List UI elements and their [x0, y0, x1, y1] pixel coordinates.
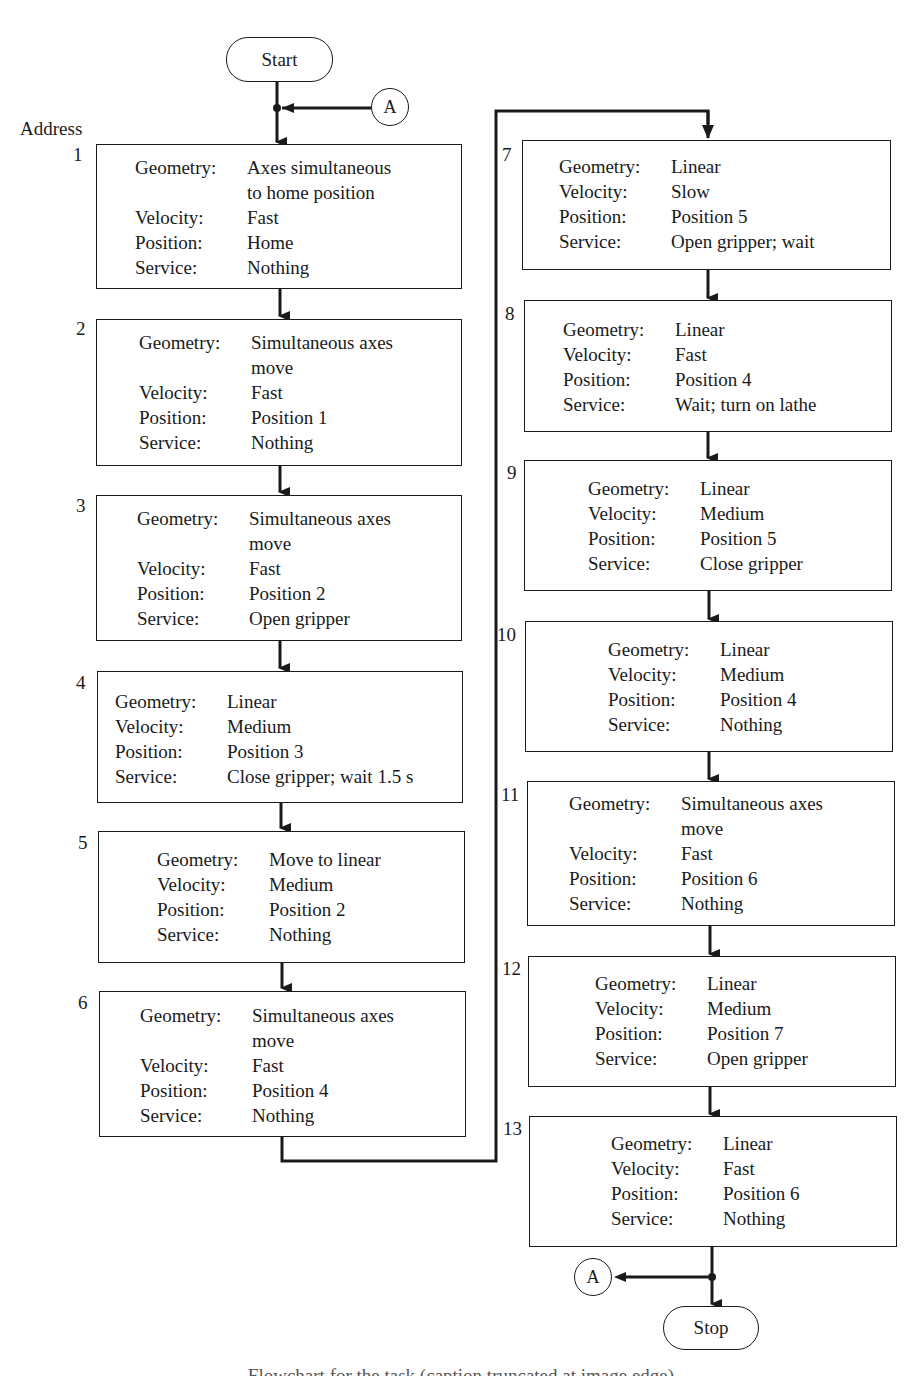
position-label: Position:: [137, 581, 249, 606]
position-value: Position 1: [251, 405, 328, 430]
velocity-label: Velocity:: [115, 714, 227, 739]
velocity-value: Fast: [251, 380, 283, 405]
service-label: Service:: [135, 255, 247, 280]
velocity-value: Fast: [681, 841, 713, 866]
figure-caption: Flowchart for the task (caption truncate…: [0, 1361, 922, 1376]
position-label: Position:: [157, 897, 269, 922]
geometry-value: Linear: [723, 1131, 773, 1156]
position-label: Position:: [563, 367, 675, 392]
service-value: Nothing: [681, 891, 743, 916]
service-label: Service:: [139, 430, 251, 455]
geometry-value: Linear: [707, 971, 757, 996]
step-box-2: Geometry:Simultaneous axes move Velocity…: [96, 319, 462, 466]
service-label: Service:: [595, 1046, 707, 1071]
velocity-label: Velocity:: [563, 342, 675, 367]
position-label: Position:: [569, 866, 681, 891]
step-box-11: Geometry:Simultaneous axes move Velocity…: [527, 781, 895, 926]
service-value: Nothing: [269, 922, 331, 947]
step-box-7: Geometry:Linear Velocity:Slow Position:P…: [522, 140, 891, 270]
position-value: Position 5: [700, 526, 777, 551]
address-heading: Address: [20, 118, 82, 140]
velocity-value: Slow: [671, 179, 710, 204]
geometry-value: Linear: [671, 154, 721, 179]
service-value: Open gripper: [707, 1046, 808, 1071]
step-address: 7: [502, 144, 512, 166]
velocity-label: Velocity:: [588, 501, 700, 526]
step-address: 3: [76, 495, 86, 517]
position-label: Position:: [139, 405, 251, 430]
position-value: Position 2: [249, 581, 326, 606]
velocity-label: Velocity:: [608, 662, 720, 687]
service-value: Nothing: [720, 712, 782, 737]
step-box-3: Geometry:Simultaneous axes move Velocity…: [96, 495, 462, 641]
geometry-value-cont: move: [249, 531, 291, 556]
step-address: 6: [78, 992, 88, 1014]
geometry-label: Geometry:: [559, 154, 671, 179]
service-value: Nothing: [251, 430, 313, 455]
step-address: 5: [78, 832, 88, 854]
connector-a-bottom: A: [574, 1258, 612, 1296]
geometry-value: Simultaneous axes: [249, 506, 391, 531]
service-value: Open gripper: [249, 606, 350, 631]
geometry-value: Axes simultaneous: [247, 155, 391, 180]
geometry-value-cont: to home position: [247, 180, 375, 205]
position-value: Home: [247, 230, 293, 255]
position-label: Position:: [140, 1078, 252, 1103]
velocity-label: Velocity:: [137, 556, 249, 581]
geometry-label: Geometry:: [137, 506, 249, 531]
step-address: 10: [497, 624, 516, 646]
velocity-label: Velocity:: [611, 1156, 723, 1181]
stop-label: Stop: [694, 1317, 729, 1339]
position-value: Position 4: [675, 367, 752, 392]
service-value: Nothing: [252, 1103, 314, 1128]
service-value: Close gripper; wait 1.5 s: [227, 764, 413, 789]
velocity-value: Medium: [700, 501, 764, 526]
position-label: Position:: [595, 1021, 707, 1046]
geometry-label: Geometry:: [157, 847, 269, 872]
service-value: Nothing: [247, 255, 309, 280]
geometry-value: Simultaneous axes: [252, 1003, 394, 1028]
geometry-value: Simultaneous axes: [681, 791, 823, 816]
step-box-13: Geometry:Linear Velocity:Fast Position:P…: [529, 1116, 897, 1247]
service-label: Service:: [559, 229, 671, 254]
step-box-5: Geometry:Move to linear Velocity:Medium …: [98, 831, 465, 963]
position-value: Position 4: [720, 687, 797, 712]
start-terminal: Start: [226, 37, 333, 82]
geometry-label: Geometry:: [140, 1003, 252, 1028]
velocity-value: Fast: [675, 342, 707, 367]
geometry-value-cont: move: [252, 1028, 294, 1053]
service-label: Service:: [115, 764, 227, 789]
position-label: Position:: [135, 230, 247, 255]
velocity-label: Velocity:: [157, 872, 269, 897]
step-box-6: Geometry:Simultaneous axes move Velocity…: [99, 991, 466, 1137]
service-label: Service:: [588, 551, 700, 576]
service-label: Service:: [563, 392, 675, 417]
position-label: Position:: [559, 204, 671, 229]
velocity-value: Fast: [249, 556, 281, 581]
step-address: 4: [76, 672, 86, 694]
velocity-label: Velocity:: [139, 380, 251, 405]
position-value: Position 7: [707, 1021, 784, 1046]
geometry-value-cont: move: [251, 355, 293, 380]
service-value: Nothing: [723, 1206, 785, 1231]
service-label: Service:: [157, 922, 269, 947]
position-label: Position:: [608, 687, 720, 712]
step-address: 12: [502, 958, 521, 980]
service-label: Service:: [611, 1206, 723, 1231]
geometry-label: Geometry:: [569, 791, 681, 816]
step-box-4: Geometry:Linear Velocity:Medium Position…: [97, 671, 463, 803]
geometry-value: Simultaneous axes: [251, 330, 393, 355]
step-address: 9: [507, 462, 517, 484]
geometry-label: Geometry:: [563, 317, 675, 342]
geometry-label: Geometry:: [608, 637, 720, 662]
velocity-value: Fast: [247, 205, 279, 230]
step-address: 11: [501, 784, 519, 806]
step-address: 2: [76, 318, 86, 340]
velocity-value: Medium: [269, 872, 333, 897]
velocity-value: Medium: [720, 662, 784, 687]
service-value: Wait; turn on lathe: [675, 392, 816, 417]
start-label: Start: [262, 49, 298, 71]
velocity-value: Medium: [707, 996, 771, 1021]
service-label: Service:: [137, 606, 249, 631]
geometry-label: Geometry:: [139, 330, 251, 355]
